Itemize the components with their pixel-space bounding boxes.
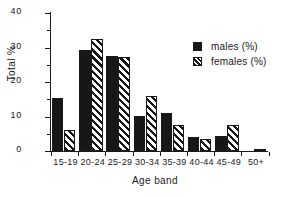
x-tick-mark: [269, 152, 270, 156]
bar-males-20-24: [79, 50, 90, 151]
legend-item-females: females (%): [193, 54, 267, 69]
bar-females-50+: [254, 149, 265, 151]
y-tick-mark: [45, 151, 50, 152]
bar-males-15-19: [52, 98, 63, 151]
bar-chart-figure: Total % Age band 010203040 15-1920-2425-…: [0, 0, 307, 197]
x-tick-mark: [105, 152, 106, 156]
legend-label-males: males (%): [211, 39, 258, 54]
bar-males-40-44: [188, 137, 199, 151]
y-tick-label: 10: [10, 110, 22, 120]
y-tick-label: 0: [16, 144, 22, 154]
x-tick-mark: [214, 152, 215, 156]
bar-females-45-49: [227, 125, 238, 151]
x-tick-mark: [133, 152, 134, 156]
legend-swatch-males-icon: [193, 42, 202, 51]
x-tick-mark: [187, 152, 188, 156]
legend-swatch-females-icon: [193, 57, 202, 66]
bar-males-30-34: [134, 116, 145, 151]
bar-females-15-19: [64, 130, 75, 151]
y-tick-label: 30: [10, 41, 22, 51]
x-tick-mark: [51, 152, 52, 156]
bar-males-45-49: [215, 136, 226, 151]
x-tick-mark: [241, 152, 242, 156]
x-tick-mark: [160, 152, 161, 156]
chart-legend: males (%) females (%): [193, 39, 267, 69]
bar-females-30-34: [146, 96, 157, 151]
x-axis-title: Age band: [50, 175, 260, 186]
bar-females-40-44: [200, 139, 211, 151]
x-tick-mark: [78, 152, 79, 156]
legend-label-females: females (%): [211, 54, 267, 69]
bar-females-20-24: [91, 39, 102, 151]
bars-layer: [50, 13, 270, 151]
y-tick-label: 40: [10, 6, 22, 16]
legend-item-males: males (%): [193, 39, 267, 54]
bar-males-35-39: [161, 113, 172, 151]
bar-males-25-29: [106, 56, 117, 151]
bar-females-25-29: [118, 57, 129, 151]
bar-females-35-39: [173, 125, 184, 151]
y-tick-label: 20: [10, 75, 22, 85]
x-tick-label-50+: 50+: [236, 157, 276, 167]
